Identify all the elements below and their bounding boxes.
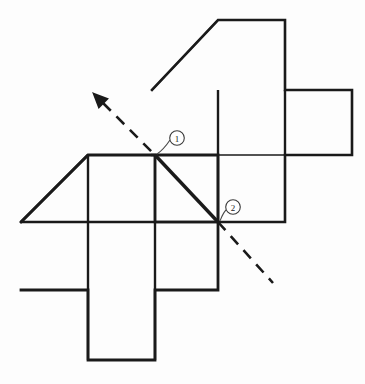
lower-net-outline — [21, 155, 218, 360]
axis-dashed-upper-segment — [103, 103, 155, 155]
cube-net-diagram: 1 2 — [0, 0, 365, 384]
lower-net-diagonal-fold — [21, 155, 88, 222]
lower-cube-net — [21, 155, 218, 360]
callout-2-leader-line — [220, 210, 226, 221]
upper-cube-net — [152, 20, 352, 222]
callout-1: 1 — [157, 131, 184, 154]
callout-2: 2 — [220, 200, 240, 221]
dashed-axis-of-rotation — [94, 94, 273, 283]
callout-2-label: 2 — [231, 203, 236, 213]
callout-1-leader-line — [157, 140, 170, 154]
axis-solid-segment — [155, 155, 218, 222]
callout-1-label: 1 — [175, 134, 180, 144]
axis-dashed-lower-segment — [218, 222, 273, 283]
figure-canvas: 1 2 — [0, 0, 365, 384]
upper-net-outline — [152, 20, 352, 222]
upper-net-diagonal-fold — [152, 20, 218, 90]
